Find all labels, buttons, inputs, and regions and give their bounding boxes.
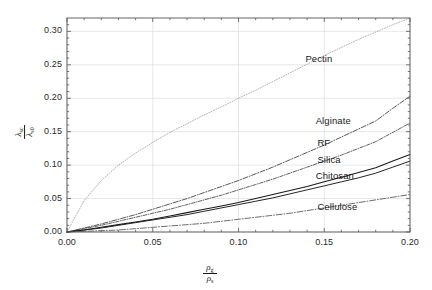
y-axis-label-numerator: λsc <box>14 126 23 137</box>
y-tick-label: 0.20 <box>29 92 62 102</box>
x-axis-label-numerator: ρg <box>205 263 214 272</box>
x-tick-label: 0.20 <box>394 237 426 247</box>
y-tick-label: 0.10 <box>29 159 62 169</box>
chart-figure: 0.000.050.100.150.200.250.30 0.000.050.1… <box>0 0 432 290</box>
x-tick-label: 0.05 <box>137 237 169 247</box>
y-axis-label-denominator: λs0 <box>26 126 35 137</box>
x-tick-label: 0.10 <box>223 237 255 247</box>
gridlines <box>67 18 410 232</box>
curve-label-pectin: Pectin <box>305 53 332 64</box>
y-tick-label: 0.05 <box>29 193 62 203</box>
y-tick-label: 0.30 <box>29 25 62 35</box>
curve-label-chitosan: Chitosan <box>316 170 354 181</box>
x-tick-label: 0.00 <box>51 237 83 247</box>
curve-label-silica: Silica <box>317 154 340 165</box>
x-tick-label: 0.15 <box>308 237 340 247</box>
curve-label-rf: RF <box>317 137 330 148</box>
x-axis-label-denominator: ρs <box>206 274 215 283</box>
curve-label-cellulose: Cellulose <box>317 201 357 212</box>
y-axis-label: λsc λs0 <box>7 125 35 139</box>
y-tick-label: 0.00 <box>29 226 62 236</box>
y-tick-label: 0.25 <box>29 59 62 69</box>
curve-label-alginate: Alginate <box>316 115 351 126</box>
x-axis-label: ρg ρs <box>203 256 217 284</box>
